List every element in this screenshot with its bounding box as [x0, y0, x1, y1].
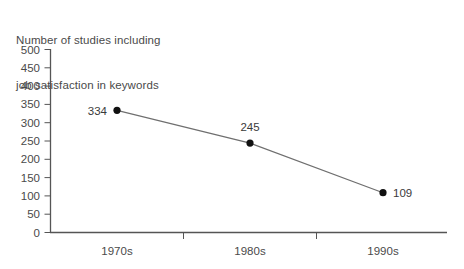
data-point-label-1980s: 245 — [240, 121, 259, 133]
xtick-label-1980s: 1980s — [234, 245, 266, 257]
ytick-label-400: 400 — [21, 80, 40, 92]
y-axis-ticks — [45, 50, 51, 233]
ytick-label-100: 100 — [21, 190, 40, 202]
data-point-marker-1990s — [379, 189, 386, 196]
ytick-label-450: 450 — [21, 62, 40, 74]
ytick-label-250: 250 — [21, 135, 40, 147]
data-point-marker-1980s — [246, 140, 253, 147]
ytick-label-300: 300 — [21, 117, 40, 129]
ytick-label-500: 500 — [21, 44, 40, 56]
data-point-label-1990s: 109 — [393, 187, 412, 199]
xtick-label-1990s: 1990s — [367, 245, 399, 257]
ytick-label-0: 0 — [34, 227, 40, 239]
line-chart-plot: 500 450 400 350 300 250 200 150 100 50 0… — [0, 0, 464, 269]
ytick-label-50: 50 — [27, 208, 40, 220]
data-point-marker-1970s — [113, 107, 120, 114]
chart-container: Number of studies including job satisfac… — [0, 0, 464, 269]
ytick-label-350: 350 — [21, 98, 40, 110]
ytick-label-150: 150 — [21, 172, 40, 184]
x-axis-ticks — [184, 233, 317, 240]
data-point-label-1970s: 334 — [88, 105, 108, 117]
xtick-label-1970s: 1970s — [101, 245, 133, 257]
ytick-label-200: 200 — [21, 153, 40, 165]
